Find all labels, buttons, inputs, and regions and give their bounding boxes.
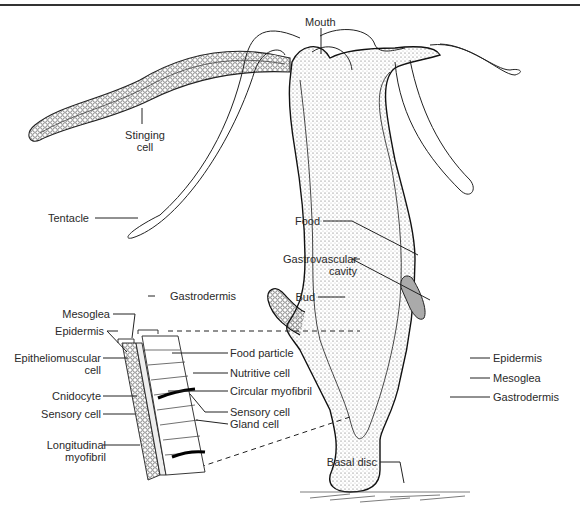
inset-label-gastrodermis: Gastrodermis [170,290,236,302]
label-epidermis: Epidermis [493,352,542,364]
inset-label-sensory-cell-left: Sensory cell [0,408,101,420]
inset-label-epidermis: Epidermis [30,325,104,337]
label-mesoglea: Mesoglea [493,372,541,384]
label-bud: Bud [280,291,315,303]
label-stinging-cell-line1: Stinging [120,129,170,141]
label-food: Food [250,215,320,227]
inset-label-food-particle: Food particle [230,347,294,359]
inset-label-longitudinal-myofibril: Longitudinal myofibril [0,439,106,463]
inset-label-epitheliomuscular-cell: Epitheliomuscular cell [0,352,101,376]
inset-label-nutritive-cell: Nutritive cell [230,367,290,379]
inset-label-gland-cell: Gland cell [230,418,279,430]
label-gvc-line1: Gastrovascular [245,253,357,265]
label-gvc-line2: cavity [245,265,357,277]
inset-label-mesoglea: Mesoglea [30,308,110,320]
label-gastrovascular-cavity: Gastrovascular cavity [245,253,357,277]
label-lm-line2: myofibril [0,451,106,463]
inset-label-sensory-cell-right: Sensory cell [230,406,290,418]
label-emc-line1: Epitheliomuscular [0,352,101,364]
label-mouth: Mouth [305,16,336,28]
label-gastrodermis: Gastrodermis [493,391,559,403]
label-stinging-cell: Stinging cell [120,129,170,153]
inset-label-circular-myofibril: Circular myofibril [230,385,312,397]
label-emc-line2: cell [0,364,101,376]
label-stinging-cell-line2: cell [120,141,170,153]
label-basal-disc: Basal disc [300,456,377,468]
left-tentacle [29,51,290,141]
label-tentacle: Tentacle [48,212,89,224]
inset-label-cnidocyte: Cnidocyte [0,390,101,402]
label-lm-line1: Longitudinal [0,439,106,451]
